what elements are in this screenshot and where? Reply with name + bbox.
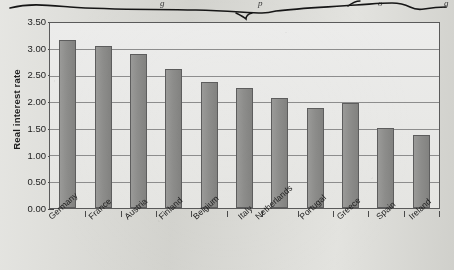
bar[interactable] bbox=[95, 46, 112, 208]
bar-cell bbox=[333, 23, 368, 208]
bar[interactable] bbox=[165, 69, 182, 208]
bar-cell bbox=[85, 23, 120, 208]
bar-cell bbox=[262, 23, 297, 208]
bar[interactable] bbox=[236, 88, 253, 208]
bar-cell bbox=[298, 23, 333, 208]
y-tick-label: 2.50 bbox=[12, 69, 46, 80]
x-label-cell: Portugal bbox=[298, 212, 334, 270]
bar-chart: Real interest rate 3.50 3.00 2.50 2.00 1… bbox=[0, 0, 454, 270]
x-label-cell: Netherlands bbox=[262, 212, 298, 270]
x-label-cell: Germany bbox=[49, 212, 85, 270]
bar-cell bbox=[191, 23, 226, 208]
bar[interactable] bbox=[342, 103, 359, 208]
x-label-cell: Spain bbox=[369, 212, 405, 270]
bar[interactable] bbox=[130, 54, 147, 208]
y-tick-label: 1.00 bbox=[12, 150, 46, 161]
y-tick-label: 3.50 bbox=[12, 16, 46, 27]
x-label-cell: France bbox=[85, 212, 121, 270]
bar-cell bbox=[368, 23, 403, 208]
x-label-cell: Finland bbox=[156, 212, 192, 270]
x-label-cell: Greece bbox=[333, 212, 369, 270]
y-axis-tick-labels: 3.50 3.00 2.50 2.00 1.50 1.00 0.50 0.00 bbox=[6, 0, 46, 270]
x-axis-category-labels: GermanyFranceAustriaFinlandBelgiumItalyN… bbox=[49, 212, 440, 270]
y-tick-label: 0.00 bbox=[12, 203, 46, 214]
x-label-cell: Belgium bbox=[191, 212, 227, 270]
y-tick-label: 2.00 bbox=[12, 96, 46, 107]
bar[interactable] bbox=[59, 40, 76, 208]
bar-cell bbox=[121, 23, 156, 208]
x-label-cell: Italy bbox=[227, 212, 263, 270]
bar-cell bbox=[404, 23, 439, 208]
y-tick-label: 1.50 bbox=[12, 123, 46, 134]
bar-series bbox=[50, 23, 439, 208]
bar-cell bbox=[50, 23, 85, 208]
bar[interactable] bbox=[201, 82, 218, 208]
x-label-cell: Austria bbox=[120, 212, 156, 270]
plot-area bbox=[49, 22, 440, 209]
x-label-cell: Ireland bbox=[404, 212, 440, 270]
y-tick-label: 0.50 bbox=[12, 176, 46, 187]
y-tick-label: 3.00 bbox=[12, 43, 46, 54]
bar-cell bbox=[156, 23, 191, 208]
bar-cell bbox=[227, 23, 262, 208]
bar[interactable] bbox=[377, 128, 394, 208]
